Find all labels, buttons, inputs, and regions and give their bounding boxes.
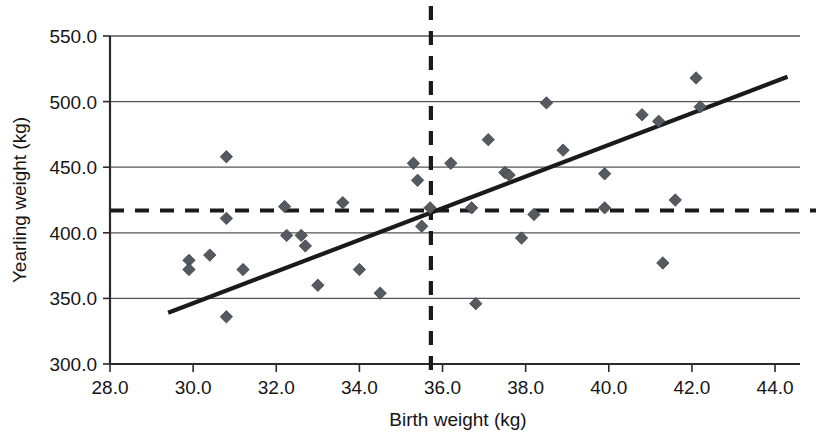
- x-tick-label: 28.0: [92, 377, 129, 398]
- data-point-marker: [220, 311, 232, 323]
- x-tick-label: 44.0: [757, 377, 794, 398]
- x-axis-tick-labels: 28.030.032.034.036.038.040.042.044.0: [92, 377, 794, 398]
- axis-lines: [110, 36, 800, 364]
- x-tick-label: 30.0: [175, 377, 212, 398]
- data-point-marker: [353, 263, 365, 275]
- data-point-marker: [636, 109, 648, 121]
- y-tick-label: 500.0: [49, 92, 97, 113]
- y-tick-label: 450.0: [49, 157, 97, 178]
- data-point-marker: [411, 174, 423, 186]
- x-axis-title: Birth weight (kg): [389, 409, 526, 430]
- data-point-marker: [220, 151, 232, 163]
- data-point-marker: [690, 72, 702, 84]
- data-point-marker: [470, 297, 482, 309]
- x-tick-label: 42.0: [673, 377, 710, 398]
- data-point-marker: [237, 263, 249, 275]
- y-axis-title: Yearling weight (kg): [9, 117, 30, 283]
- data-point-marker: [280, 229, 292, 241]
- data-point-marker: [204, 249, 216, 261]
- data-point-marker: [337, 196, 349, 208]
- x-tick-label: 36.0: [424, 377, 461, 398]
- data-point-marker: [374, 287, 386, 299]
- y-tick-label: 550.0: [49, 26, 97, 47]
- data-point-marker: [598, 202, 610, 214]
- chart-canvas: 28.030.032.034.036.038.040.042.044.0 300…: [0, 0, 816, 433]
- data-point-marker: [312, 279, 324, 291]
- data-points: [183, 72, 707, 323]
- x-tick-label: 34.0: [341, 377, 378, 398]
- data-point-marker: [220, 212, 232, 224]
- regression-trend-line: [168, 77, 787, 313]
- data-point-marker: [657, 257, 669, 269]
- data-point-marker: [416, 220, 428, 232]
- data-point-marker: [183, 263, 195, 275]
- x-tick-label: 38.0: [507, 377, 544, 398]
- reference-lines: [110, 6, 816, 372]
- y-tick-label: 400.0: [49, 223, 97, 244]
- y-axis-tick-labels: 300.0350.0400.0450.0500.0550.0: [49, 26, 97, 375]
- x-tick-label: 32.0: [258, 377, 295, 398]
- data-point-marker: [540, 97, 552, 109]
- scatter-chart: 28.030.032.034.036.038.040.042.044.0 300…: [0, 0, 816, 433]
- y-tick-label: 350.0: [49, 288, 97, 309]
- data-point-marker: [669, 194, 681, 206]
- data-point-marker: [598, 168, 610, 180]
- data-point-marker: [482, 133, 494, 145]
- trend-line: [168, 77, 787, 313]
- y-tick-label: 300.0: [49, 354, 97, 375]
- data-point-marker: [515, 232, 527, 244]
- data-point-marker: [557, 144, 569, 156]
- x-tick-label: 40.0: [590, 377, 627, 398]
